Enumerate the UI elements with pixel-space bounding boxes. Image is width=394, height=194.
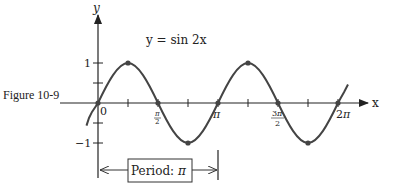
svg-text:2: 2 bbox=[275, 119, 280, 128]
y-tick-label-1: 1 bbox=[84, 57, 91, 70]
chart-title: y = sin 2x bbox=[145, 33, 207, 47]
x-tick-label-2pi: 2π bbox=[336, 108, 351, 121]
sine-chart: y x y = sin 2x 0 π 2 π 3π 2 2π 1 −1 bbox=[0, 0, 394, 194]
svg-text:2: 2 bbox=[155, 118, 159, 126]
axes bbox=[60, 15, 368, 178]
x-tick-label-0: 0 bbox=[100, 105, 107, 118]
period-annotation: Period: π bbox=[100, 150, 218, 182]
period-value: π bbox=[177, 164, 187, 178]
x-axis-label: x bbox=[372, 96, 379, 110]
svg-text:π: π bbox=[154, 110, 160, 118]
x-tick-label-pi-over-2: π 2 bbox=[154, 110, 161, 126]
y-tick-label-neg1: −1 bbox=[75, 137, 91, 150]
period-label: Period: bbox=[131, 164, 174, 178]
y-axis-label: y bbox=[92, 1, 100, 15]
